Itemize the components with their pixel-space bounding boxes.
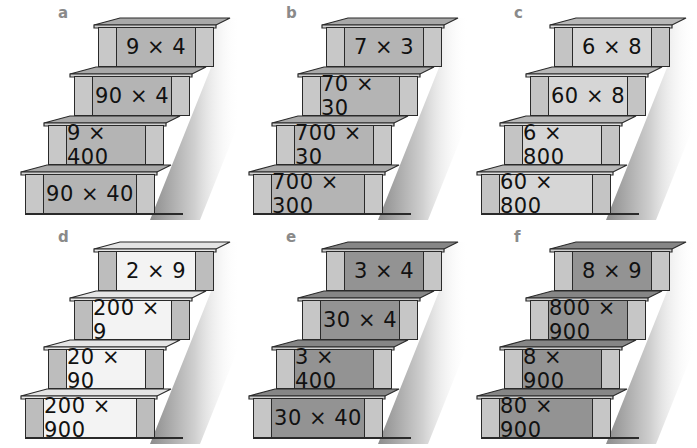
multiplication-expression: 20 × 90 [67,350,145,388]
step-riser: 30 × 4 [302,300,418,340]
panel-label: a [58,4,68,22]
step-post-left [99,28,117,66]
step-post-right [399,301,417,339]
step-riser: 80 × 900 [481,398,611,438]
stair-step: 30 × 40 [253,388,383,438]
multiplication-expression: 6 × 8 [573,28,651,66]
step-post-right [651,28,669,66]
step-post-left [482,399,500,437]
step-post-left [531,77,549,115]
step-riser: 8 × 900 [504,349,620,389]
step-post-left [49,126,67,164]
step-post-right [364,399,382,437]
multiplication-expression: 70 × 30 [321,77,399,115]
multiplication-expression: 3 × 4 [345,252,423,290]
step-post-left [75,77,93,115]
multiplication-expression: 200 × 900 [44,399,136,437]
step-post-right [592,399,610,437]
stair-step: 60 × 800 [481,164,611,214]
step-post-right [601,350,619,388]
multiplication-expression: 700 × 300 [272,175,364,213]
step-post-right [627,301,645,339]
multiplication-expression: 80 × 900 [500,399,592,437]
multiplication-expression: 7 × 3 [345,28,423,66]
stair-step: 700 × 300 [253,164,383,214]
panel-label: b [286,4,297,22]
step-post-right [195,28,213,66]
step-post-right [145,126,163,164]
step-riser: 70 × 30 [302,76,418,116]
step-riser: 90 × 4 [74,76,190,116]
floor-line [481,437,639,439]
step-post-left [254,175,272,213]
step-post-right [601,126,619,164]
panel-label: c [514,4,523,22]
stair-step: 20 × 90 [48,339,164,389]
step-post-left [49,350,67,388]
step-post-left [277,350,295,388]
stair-step: 3 × 400 [276,339,392,389]
multiplication-expression: 60 × 800 [500,175,592,213]
step-riser: 60 × 8 [530,76,646,116]
floor-line [25,437,183,439]
multiplication-expression: 90 × 4 [93,77,171,115]
stair-step: 80 × 900 [481,388,611,438]
step-post-left [531,301,549,339]
step-post-right [136,175,154,213]
step-post-left [327,252,345,290]
step-post-right [423,28,441,66]
stair-step: 3 × 4 [326,241,442,291]
staircase-panel-d: d2 × 9200 × 920 × 90200 × 900 [0,224,228,448]
step-post-left [26,175,44,213]
staircase-panel-c: c6 × 860 × 86 × 80060 × 800 [456,0,684,224]
stair-step: 6 × 8 [554,17,670,67]
step-post-left [277,126,295,164]
panel-label: d [58,228,69,246]
stair-step: 8 × 9 [554,241,670,291]
stair-step: 8 × 900 [504,339,620,389]
stair-step: 2 × 9 [98,241,214,291]
step-riser: 9 × 400 [48,125,164,165]
multiplication-expression: 30 × 4 [321,301,399,339]
step-post-left [26,399,44,437]
step-post-left [482,175,500,213]
stair-step: 60 × 8 [530,66,646,116]
multiplication-expression: 9 × 4 [117,28,195,66]
multiplication-expression: 3 × 400 [295,350,373,388]
step-riser: 200 × 900 [25,398,155,438]
floor-line [481,213,639,215]
step-post-right [627,77,645,115]
step-post-right [592,175,610,213]
step-post-left [303,301,321,339]
step-post-left [75,301,93,339]
staircase-panel-a: a9 × 490 × 49 × 40090 × 40 [0,0,228,224]
step-post-right [423,252,441,290]
step-riser: 6 × 8 [554,27,670,67]
step-riser: 2 × 9 [98,251,214,291]
multiplication-expression: 60 × 8 [549,77,627,115]
step-riser: 3 × 400 [276,349,392,389]
stair-step: 70 × 30 [302,66,418,116]
panel-label: e [286,228,296,246]
multiplication-expression: 800 × 900 [549,301,627,339]
step-post-right [364,175,382,213]
step-riser: 200 × 9 [74,300,190,340]
step-post-right [373,126,391,164]
stair-step: 200 × 9 [74,290,190,340]
stair-step: 9 × 400 [48,115,164,165]
stair-step: 30 × 4 [302,290,418,340]
multiplication-expression: 90 × 40 [44,175,136,213]
multiplication-expression: 700 × 30 [295,126,373,164]
step-post-left [327,28,345,66]
step-riser: 800 × 900 [530,300,646,340]
step-post-right [195,252,213,290]
step-riser: 90 × 40 [25,174,155,214]
step-riser: 20 × 90 [48,349,164,389]
staircase-panel-e: e3 × 430 × 43 × 40030 × 40 [228,224,456,448]
step-riser: 30 × 40 [253,398,383,438]
step-post-left [254,399,272,437]
staircase-panel-f: f8 × 9800 × 9008 × 90080 × 900 [456,224,684,448]
step-post-left [555,28,573,66]
step-riser: 700 × 30 [276,125,392,165]
floor-line [25,213,183,215]
